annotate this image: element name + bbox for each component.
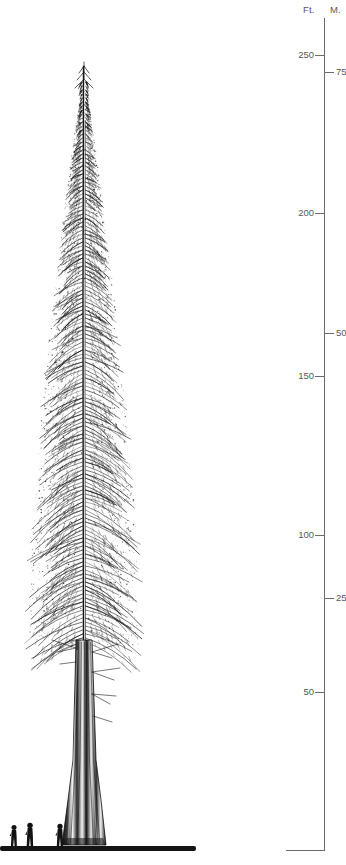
tick-feet-100 [315, 535, 324, 536]
tick-meters-50 [325, 333, 334, 334]
tick-label-feet-50: 50 [286, 686, 314, 697]
caption-line-2: r [0, 693, 24, 703]
scale-header-feet: Ft. [303, 4, 315, 15]
height-scale-bar: Ft. M. 25020015010050 755025 [0, 0, 346, 865]
tick-label-meters-50: 50 [336, 327, 346, 338]
scale-header-meters: M. [330, 4, 341, 15]
tick-label-feet-250: 250 [286, 49, 314, 60]
tick-meters-25 [325, 598, 334, 599]
tick-feet-50 [315, 692, 324, 693]
caption-line-1: c. [0, 683, 24, 693]
scale-axis-line [324, 18, 325, 851]
tick-feet-150 [315, 376, 324, 377]
tick-feet-200 [315, 213, 324, 214]
tick-label-meters-75: 75 [336, 66, 346, 77]
tick-label-meters-25: 25 [336, 592, 346, 603]
tick-label-feet-200: 200 [286, 207, 314, 218]
tick-label-feet-150: 150 [286, 370, 314, 381]
illustration-canvas: Ft. M. 25020015010050 755025 c. r [0, 0, 346, 865]
tick-label-feet-100: 100 [286, 529, 314, 540]
caption-fragment: c. r [0, 683, 24, 703]
tick-meters-75 [325, 72, 334, 73]
tick-feet-250 [315, 55, 324, 56]
scale-axis-baseline [286, 850, 325, 851]
